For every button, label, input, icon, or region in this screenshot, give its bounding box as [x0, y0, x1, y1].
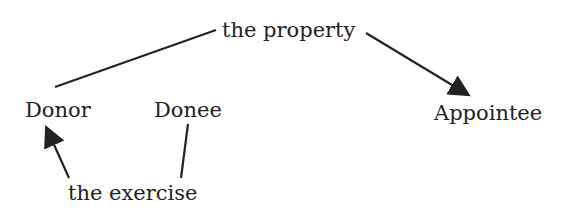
edge-property-appointee-arrow [366, 33, 467, 94]
edge-property-donor [55, 30, 216, 87]
node-the-exercise: the exercise [68, 183, 198, 204]
edge-exercise-donee [181, 124, 188, 178]
edge-exercise-donor-arrow [47, 129, 69, 178]
diagram-canvas: the property Donor Donee Appointee the e… [0, 0, 570, 216]
node-donee: Donee [154, 100, 222, 121]
node-the-property: the property [222, 20, 355, 41]
node-appointee: Appointee [434, 103, 542, 124]
node-donor: Donor [25, 100, 91, 121]
